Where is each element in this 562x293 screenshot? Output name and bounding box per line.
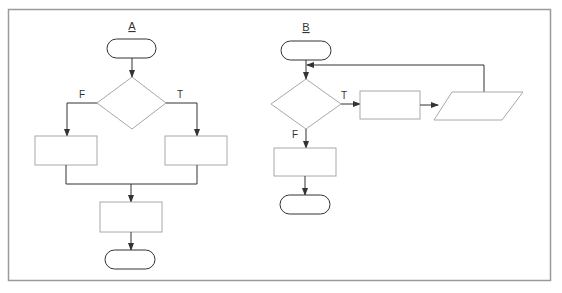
diagram-a-false-process [35,136,97,165]
diagram-a-false-label: F [79,89,85,100]
diagram-a-start-terminal [107,39,156,58]
diagram-a-end-terminal [105,250,155,269]
diagram-a-true-connector [166,103,197,136]
diagram-a-decision-diamond [97,77,166,129]
diagram-b-decision-diamond [271,79,341,129]
diagram-a-false-connector [67,103,97,136]
diagram-a-merge-line [66,165,197,184]
diagram-b-loop-return-connector [307,65,484,92]
diagram-a-merge-process [100,202,162,232]
diagram-b-end-terminal [280,195,330,214]
diagram-b-exit-process [274,148,336,176]
diagram-a-true-process [165,136,227,165]
diagram-b-false-label: F [292,129,298,140]
diagram-a: A F T [35,20,227,269]
flowchart-figure: A F T B T F [0,0,562,293]
diagram-b: B T F [271,21,523,214]
diagram-b-start-terminal [281,41,331,60]
diagram-a-true-label: T [177,89,183,100]
diagram-b-true-label: T [341,90,347,101]
diagram-b-loop-process [360,91,420,119]
diagram-b-loop-io-parallelogram [434,92,523,120]
diagram-b-title: B [302,21,309,33]
diagram-a-title: A [128,20,136,32]
